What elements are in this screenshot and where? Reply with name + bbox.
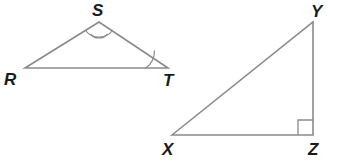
right-angle-mark-z: [298, 120, 313, 135]
right-angle-square-z: [298, 120, 313, 135]
angle-mark-s-double: [86, 31, 113, 39]
triangle-rst: R S T: [4, 1, 175, 90]
triangle-xyz: X Y Z: [161, 2, 324, 159]
triangle-xyz-outline: [172, 22, 313, 135]
angle-mark-t-single: [146, 51, 155, 69]
figure-canvas: R S T X Y Z: [0, 0, 339, 162]
geometry-figure: R S T X Y Z: [0, 0, 339, 162]
angle-arc-t: [146, 51, 155, 69]
vertex-label-s: S: [92, 1, 104, 20]
vertex-label-r: R: [4, 70, 17, 89]
vertex-label-t: T: [163, 71, 175, 90]
vertex-label-z: Z: [307, 140, 319, 159]
triangle-rst-outline: [25, 22, 168, 68]
vertex-label-x: X: [161, 140, 175, 159]
angle-arc-s-outer: [86, 31, 113, 38]
vertex-label-y: Y: [311, 2, 324, 21]
